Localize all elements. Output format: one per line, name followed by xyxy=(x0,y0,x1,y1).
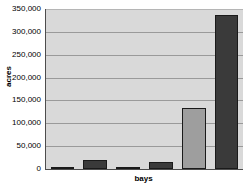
bar-series xyxy=(46,9,243,169)
y-axis-tick-label: 250,000 xyxy=(12,51,41,59)
y-axis-tick-labels: 350,000300,000250,000200,000150,000100,0… xyxy=(0,0,44,192)
y-axis-tick-label: 200,000 xyxy=(12,74,41,82)
x-axis-title: bays xyxy=(45,174,242,183)
y-axis-tick-label: 350,000 xyxy=(12,5,41,13)
bar xyxy=(215,15,239,169)
y-axis-tick-label: 100,000 xyxy=(12,119,41,127)
bar xyxy=(182,108,206,169)
y-axis-tick-label: 150,000 xyxy=(12,96,41,104)
y-axis-tick-label: 50,000 xyxy=(17,142,41,150)
bar xyxy=(83,160,107,169)
plot-area xyxy=(45,9,243,170)
bar xyxy=(149,162,173,169)
bar xyxy=(116,167,140,169)
y-axis-tick-label: 300,000 xyxy=(12,28,41,36)
bar-chart: acres 350,000300,000250,000200,000150,00… xyxy=(0,0,251,192)
bar xyxy=(51,167,75,169)
y-axis-tick-label: 0 xyxy=(37,165,41,173)
